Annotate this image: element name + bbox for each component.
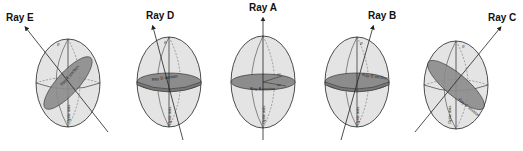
optic-axis-label: Optic axis: [261, 106, 266, 124]
omega-label-1: ω: [277, 71, 281, 76]
panel-ray-b: Ray B Optic axis Ray B section θ: [325, 10, 396, 140]
section-label: Ray A section: [250, 86, 276, 91]
optic-axis-label: Optic axis: [355, 107, 360, 125]
indicatrix-diagram: Ray E Optic axis Ray E section θ Ray D O…: [0, 0, 523, 151]
omega-label-2: ω: [277, 82, 281, 87]
ray-a-label: Ray A: [249, 2, 277, 13]
ray-d-label: Ray D: [146, 10, 174, 21]
panel-ray-e: Ray E Optic axis Ray E section θ: [6, 12, 108, 132]
ray-c-label: Ray C: [488, 12, 516, 23]
optic-axis-label: Optic axis: [167, 107, 172, 125]
optic-axis-label: Optic axis: [447, 106, 452, 124]
panel-ray-a: Ray A Optic axis Ray A section ω ω: [231, 2, 295, 140]
ray-b-label: Ray B: [368, 10, 396, 21]
optic-axis-label: Optic axis: [66, 105, 71, 123]
panel-ray-c: Ray C Optic axis Ray C section θ: [415, 12, 516, 132]
panel-ray-d: Ray D Optic axis Ray D section θ: [137, 10, 201, 140]
ray-e-label: Ray E: [6, 12, 34, 23]
